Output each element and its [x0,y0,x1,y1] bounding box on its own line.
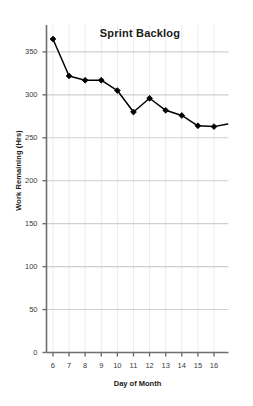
x-tick-label: 9 [94,361,108,370]
x-tick-label: 10 [110,361,124,370]
x-tick-label: 14 [175,361,189,370]
vertical-gridlines [53,25,214,353]
x-tick-label: 11 [126,361,140,370]
y-tick-label: 50 [14,305,38,314]
y-tick-label: 300 [14,90,38,99]
horizontal-gridlines [47,52,229,310]
chart-title: Sprint Backlog [75,27,205,39]
y-tick-label: 350 [14,47,38,56]
y-tick-label: 200 [14,176,38,185]
y-tick-label: 150 [14,219,38,228]
x-tick-label: 8 [78,361,92,370]
x-tick-label: 15 [191,361,205,370]
x-tick-label: 7 [62,361,76,370]
y-tick-label: 100 [14,262,38,271]
x-tick-label: 12 [143,361,157,370]
x-tick-label: 13 [159,361,173,370]
axis-lines [47,25,229,353]
sprint-backlog-chart: Sprint Backlog Work Remaining (Hrs) Day … [0,0,253,406]
x-tick-label: 6 [46,361,60,370]
x-tick-label: 16 [207,361,221,370]
y-tick-label: 250 [14,133,38,142]
x-axis-title: Day of Month [46,379,229,388]
y-tick-label: 0 [14,348,38,357]
plot-area [0,0,253,406]
